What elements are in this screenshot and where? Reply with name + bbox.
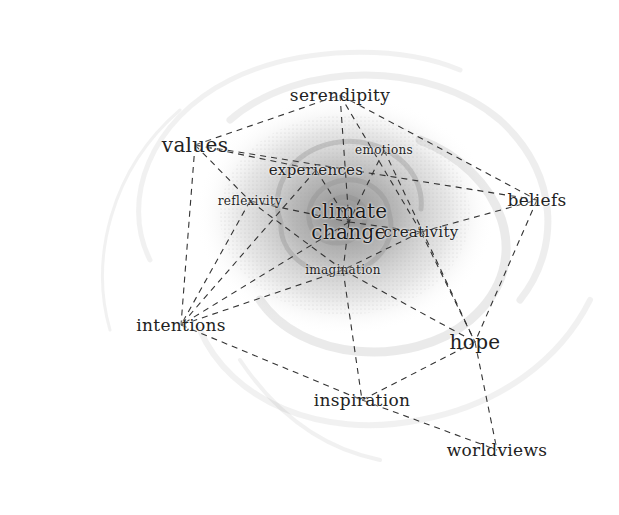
node-serendipity[interactable]: serendipity: [290, 87, 390, 104]
node-intentions[interactable]: intentions: [136, 317, 225, 334]
center-node-climate-change[interactable]: climate change: [311, 201, 388, 243]
center-node-line-2: change: [311, 222, 388, 243]
node-values[interactable]: values: [162, 135, 228, 155]
node-reflexivity[interactable]: reflexivity: [218, 195, 282, 207]
node-emotions[interactable]: emotions: [355, 144, 413, 156]
edge-values-intentions: [181, 145, 195, 325]
node-creativity[interactable]: creativity: [384, 225, 459, 240]
concept-diagram-canvas: [0, 0, 619, 515]
node-beliefs[interactable]: beliefs: [508, 192, 567, 209]
node-hope[interactable]: hope: [450, 332, 501, 352]
center-node-line-1: climate: [311, 201, 388, 222]
node-inspiration[interactable]: inspiration: [314, 392, 410, 409]
node-experiences[interactable]: experiences: [269, 163, 364, 178]
node-worldviews[interactable]: worldviews: [447, 442, 548, 459]
node-imagination[interactable]: imagination: [305, 264, 381, 276]
